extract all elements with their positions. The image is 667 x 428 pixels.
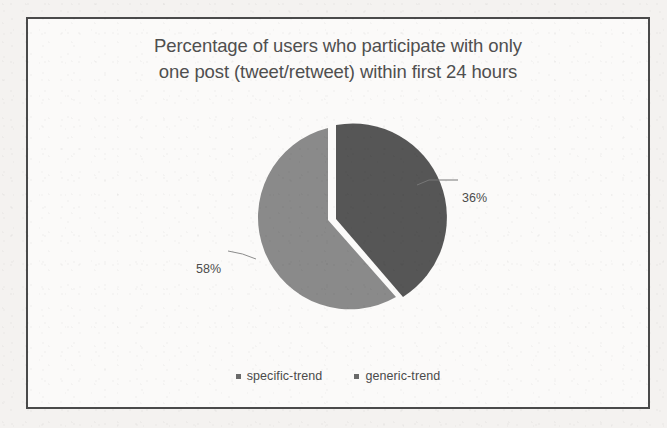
legend-label-generic-trend: generic-trend — [365, 369, 440, 383]
figure-frame: Percentage of users who participate with… — [26, 17, 650, 409]
pie-data-label-specific-trend: 58% — [196, 262, 221, 276]
pie-chart: Percentage of users who participate with… — [28, 19, 648, 407]
pie-data-label-generic-trend: 36% — [462, 191, 487, 205]
leader-line-specific-trend — [228, 251, 256, 259]
chart-legend: specific-trend generic-trend — [28, 369, 648, 383]
legend-swatch-icon-specific-trend — [236, 374, 241, 379]
legend-label-specific-trend: specific-trend — [247, 369, 323, 383]
legend-swatch-icon-generic-trend — [354, 374, 359, 379]
legend-item-specific-trend[interactable]: specific-trend — [236, 369, 323, 383]
pie-plot-area — [28, 19, 648, 407]
legend-item-generic-trend[interactable]: generic-trend — [354, 369, 440, 383]
